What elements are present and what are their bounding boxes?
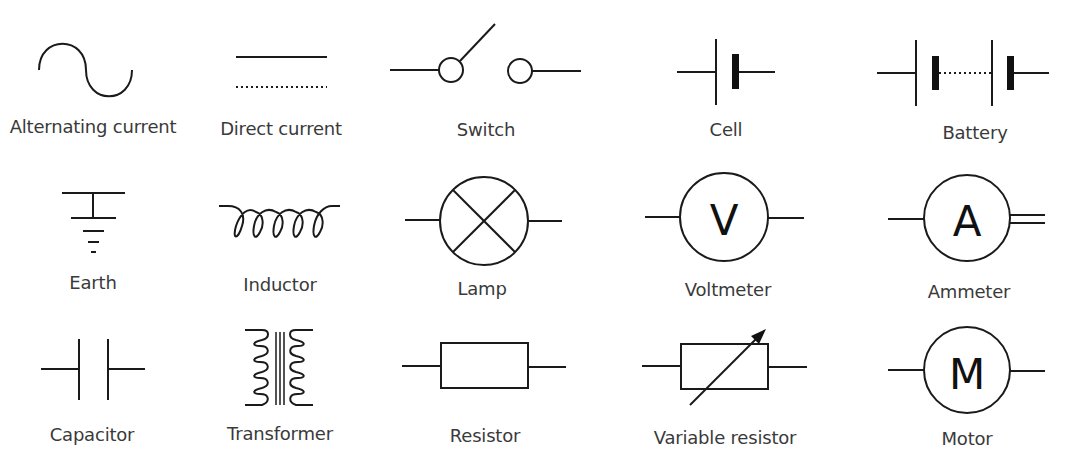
label-resistor: Resistor bbox=[450, 425, 520, 446]
switch-icon bbox=[390, 24, 581, 83]
label-earth: Earth bbox=[69, 272, 116, 293]
inductor-icon bbox=[219, 206, 340, 237]
label-alternating-current: Alternating current bbox=[10, 116, 177, 137]
label-capacitor: Capacitor bbox=[50, 424, 135, 445]
label-voltmeter: Voltmeter bbox=[685, 279, 771, 300]
alternating-current-icon bbox=[39, 44, 132, 97]
label-ammeter: Ammeter bbox=[928, 281, 1011, 302]
label-variable-resistor: Variable resistor bbox=[654, 427, 797, 448]
capacitor-icon bbox=[41, 339, 145, 400]
lamp-icon bbox=[405, 177, 562, 265]
label-direct-current: Direct current bbox=[220, 118, 342, 139]
voltmeter-icon: V bbox=[645, 173, 804, 261]
earth-icon bbox=[62, 193, 125, 252]
label-battery: Battery bbox=[942, 122, 1007, 143]
motor-icon: M bbox=[888, 327, 1045, 413]
label-lamp: Lamp bbox=[457, 278, 506, 299]
label-transformer: Transformer bbox=[227, 423, 333, 444]
cell-icon bbox=[677, 39, 775, 105]
symbols-drawing: V A M bbox=[0, 0, 1065, 459]
transformer-icon bbox=[245, 330, 313, 405]
voltmeter-glyph: V bbox=[710, 196, 739, 245]
label-inductor: Inductor bbox=[243, 274, 316, 295]
label-cell: Cell bbox=[710, 119, 743, 140]
label-motor: Motor bbox=[941, 428, 992, 449]
battery-icon bbox=[877, 40, 1049, 106]
direct-current-icon bbox=[236, 57, 327, 87]
circuit-symbols-diagram: V A M bbox=[0, 0, 1065, 459]
resistor-icon bbox=[402, 343, 566, 388]
ammeter-glyph: A bbox=[953, 197, 982, 246]
label-switch: Switch bbox=[457, 119, 515, 140]
motor-glyph: M bbox=[949, 350, 985, 399]
variable-resistor-icon bbox=[642, 329, 807, 405]
ammeter-icon: A bbox=[888, 175, 1045, 261]
